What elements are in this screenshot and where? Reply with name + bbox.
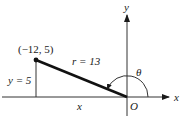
base-label: x [76,100,82,112]
diagram-canvas: (−12, 5) r = 13 y = 5 x O x y θ [0,0,186,118]
origin-label: O [130,100,138,112]
point-label: (−12, 5) [18,43,54,56]
y-axis-label: y [123,1,129,13]
point-dot [34,58,39,63]
theta-arc [108,76,149,97]
x-axis-label: x [173,91,179,103]
theta-label: θ [136,66,142,78]
height-label: y = 5 [7,74,32,86]
radius-label: r = 13 [72,55,101,67]
